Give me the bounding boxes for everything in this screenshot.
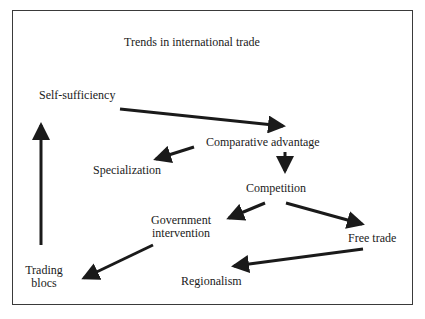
node-comparative-advantage: Comparative advantage [206, 136, 320, 149]
node-specialization: Specialization [93, 164, 161, 177]
node-regionalism: Regionalism [181, 275, 242, 288]
node-self-sufficiency: Self-sufficiency [39, 89, 115, 102]
node-government-intervention-line2: intervention [146, 227, 216, 240]
node-trading-blocs-line2: blocs [22, 277, 66, 290]
node-competition: Competition [246, 182, 306, 195]
node-free-trade: Free trade [348, 232, 396, 245]
arrow-comparative-advantage-to-specialization [156, 147, 194, 159]
node-trading-blocs: Trading blocs [22, 264, 66, 290]
arrow-free-trade-to-regionalism [234, 249, 363, 266]
node-government-intervention: Government intervention [146, 214, 216, 240]
arrow-competition-to-free-trade [286, 203, 362, 224]
arrow-government-intervention-to-trading-blocs [84, 245, 153, 278]
arrow-competition-to-government-intervention [229, 203, 265, 218]
arrow-self-sufficiency-to-comparative-advantage [120, 109, 283, 126]
diagram-title: Trends in international trade [124, 36, 260, 49]
